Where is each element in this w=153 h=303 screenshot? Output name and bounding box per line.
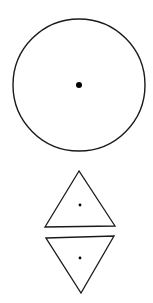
triangle-up-shape [45,171,115,227]
diagram-canvas [0,0,153,303]
triangle-down-outline [46,236,114,293]
circle-center-dot [76,82,82,88]
triangle-down-shape [46,236,114,293]
triangle-down-center-dot [79,257,82,260]
triangle-up-outline [45,171,115,227]
triangle-up-center-dot [79,204,82,207]
circle-shape [13,19,145,151]
